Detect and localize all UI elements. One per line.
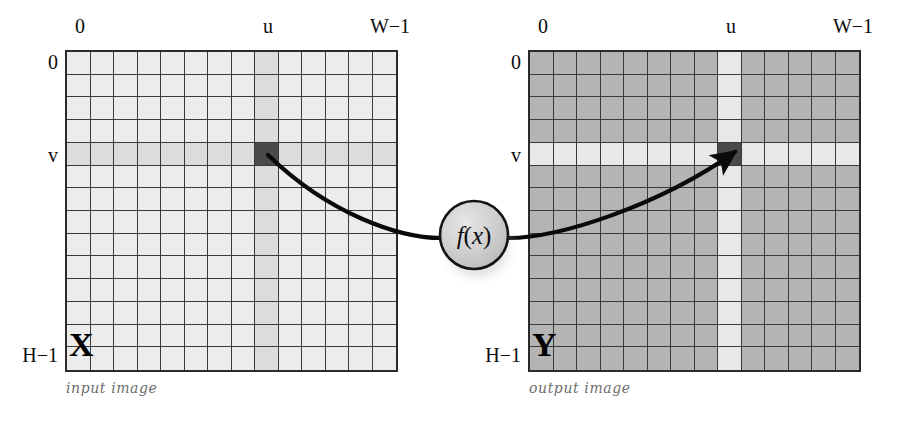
highlight-row-cell — [789, 143, 813, 166]
highlight-column-cell — [718, 52, 742, 75]
pixel-cell — [185, 211, 209, 234]
pixel-cell — [765, 211, 789, 234]
pixel-cell — [138, 166, 162, 189]
pixel-cell — [765, 325, 789, 348]
pixel-cell — [326, 302, 350, 325]
highlight-column-cell — [718, 256, 742, 279]
pixel-cell — [138, 120, 162, 143]
pixel-cell — [232, 302, 256, 325]
pixel-cell — [91, 279, 115, 302]
pixel-cell — [624, 166, 648, 189]
pixel-cell — [279, 302, 303, 325]
highlight-row-cell — [695, 143, 719, 166]
pixel-cell — [114, 347, 138, 370]
highlight-row-cell — [279, 143, 303, 166]
pixel-cell — [114, 325, 138, 348]
highlight-column-cell — [718, 325, 742, 348]
highlight-column-cell — [255, 211, 279, 234]
pixel-cell — [67, 52, 91, 75]
pixel-cell — [161, 52, 185, 75]
pixel-cell — [208, 325, 232, 348]
pixel-cell — [232, 256, 256, 279]
highlight-row-cell — [302, 143, 326, 166]
pixel-cell — [326, 120, 350, 143]
pixel-cell — [185, 97, 209, 120]
pixel-cell — [765, 120, 789, 143]
pixel-cell — [279, 166, 303, 189]
pixel-cell — [349, 166, 373, 189]
output-image-panel — [528, 50, 861, 372]
fx-node-circle[interactable] — [440, 201, 508, 269]
pixel-cell — [671, 52, 695, 75]
pixel-cell — [208, 302, 232, 325]
pixel-cell — [648, 166, 672, 189]
pixel-cell — [232, 347, 256, 370]
pixel-cell — [530, 302, 554, 325]
pixel-cell — [373, 302, 397, 325]
pixel-cell — [114, 211, 138, 234]
highlight-row-cell — [185, 143, 209, 166]
pixel-cell — [114, 97, 138, 120]
pixel-cell — [648, 188, 672, 211]
highlight-row-cell — [648, 143, 672, 166]
pixel-cell — [695, 234, 719, 257]
pixel-cell — [624, 211, 648, 234]
pixel-cell — [373, 52, 397, 75]
pixel-cell — [91, 256, 115, 279]
pixel-cell — [349, 75, 373, 98]
pixel-cell — [836, 52, 860, 75]
pixel-cell — [812, 256, 836, 279]
pixel-cell — [114, 188, 138, 211]
highlight-row-cell — [349, 143, 373, 166]
pixel-cell — [91, 302, 115, 325]
highlight-column-cell — [718, 211, 742, 234]
pixel-cell — [91, 188, 115, 211]
highlight-column-cell — [718, 166, 742, 189]
pixel-cell — [695, 52, 719, 75]
pixel-cell — [161, 211, 185, 234]
pixel-cell — [671, 347, 695, 370]
highlight-column-cell — [718, 279, 742, 302]
pixel-cell — [765, 256, 789, 279]
pixel-cell — [695, 347, 719, 370]
highlight-row-cell — [530, 143, 554, 166]
pixel-cell — [671, 325, 695, 348]
pixel-cell — [279, 120, 303, 143]
pixel-cell — [208, 52, 232, 75]
pixel-cell — [601, 120, 625, 143]
highlight-column-cell — [255, 52, 279, 75]
highlight-row-cell — [671, 143, 695, 166]
pixel-cell — [836, 188, 860, 211]
pixel-cell — [302, 279, 326, 302]
highlight-row-cell — [138, 143, 162, 166]
pixel-cell — [232, 120, 256, 143]
pixel-cell — [67, 302, 91, 325]
pixel-cell — [577, 234, 601, 257]
input-image-grid — [65, 50, 398, 372]
pixel-cell — [624, 325, 648, 348]
pixel-cell — [326, 211, 350, 234]
pixel-cell — [161, 347, 185, 370]
pixel-cell — [812, 279, 836, 302]
pixel-cell — [232, 166, 256, 189]
pixel-cell — [624, 52, 648, 75]
pixel-cell — [349, 325, 373, 348]
pixel-cell — [208, 75, 232, 98]
input-image-caption: input image — [66, 380, 158, 396]
pixel-cell — [765, 97, 789, 120]
pixel-cell — [577, 120, 601, 143]
pixel-cell — [554, 97, 578, 120]
pixel-cell — [232, 97, 256, 120]
pixel-cell — [836, 166, 860, 189]
pixel-cell — [742, 52, 766, 75]
pixel-cell — [648, 234, 672, 257]
pixel-cell — [742, 302, 766, 325]
pixel-cell — [624, 188, 648, 211]
pixel-cell — [91, 325, 115, 348]
pixel-cell — [232, 211, 256, 234]
highlight-column-cell — [255, 256, 279, 279]
pixel-cell — [742, 120, 766, 143]
pixel-cell — [326, 325, 350, 348]
highlight-row-cell — [742, 143, 766, 166]
highlight-row-cell — [765, 143, 789, 166]
